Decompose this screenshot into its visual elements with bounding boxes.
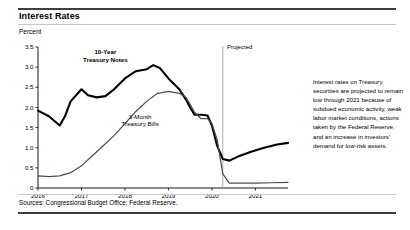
svg-text:10-Year: 10-Year bbox=[94, 48, 117, 55]
svg-text:3-Month: 3-Month bbox=[129, 113, 152, 120]
svg-text:3.0: 3.0 bbox=[25, 63, 34, 70]
svg-text:0: 0 bbox=[30, 184, 34, 191]
source-divider-rule bbox=[18, 194, 396, 195]
series-lines bbox=[38, 65, 288, 183]
svg-text:2.0: 2.0 bbox=[25, 104, 34, 111]
svg-text:2.5: 2.5 bbox=[25, 83, 34, 90]
svg-text:3.5: 3.5 bbox=[25, 43, 34, 50]
svg-text:Treasury Bills: Treasury Bills bbox=[122, 120, 159, 127]
y-axis: 00.51.01.52.02.53.03.5 bbox=[25, 43, 38, 191]
svg-text:0.5: 0.5 bbox=[25, 164, 34, 171]
svg-text:Treasury Notes: Treasury Notes bbox=[83, 56, 128, 63]
svg-text:1.0: 1.0 bbox=[25, 144, 34, 151]
figure-bottom-rule bbox=[18, 212, 396, 214]
source-note: Sources: Congressional Budget Office; Fe… bbox=[19, 199, 177, 207]
chart-annotations: 10-YearTreasury Notes3-MonthTreasury Bil… bbox=[83, 44, 252, 127]
svg-text:1.5: 1.5 bbox=[25, 124, 34, 131]
interest-rates-figure: Interest Rates Percent 00.51.01.52.02.53… bbox=[0, 0, 410, 230]
svg-text:Projected: Projected bbox=[227, 44, 252, 50]
side-note-text: Interest rates on Treasury securities ar… bbox=[313, 77, 405, 150]
